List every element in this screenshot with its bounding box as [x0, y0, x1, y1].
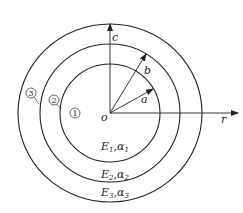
layer-2-properties: E2,α2	[100, 168, 129, 182]
svg-text:1: 1	[73, 109, 78, 118]
radius-label-a: a	[141, 93, 148, 106]
layer-marker-3: 3	[26, 88, 39, 104]
layer-marker-1: 1	[70, 108, 80, 118]
svg-text:3: 3	[29, 89, 34, 98]
axis-label-r: r	[221, 113, 227, 126]
radius-label-b: b	[144, 64, 151, 77]
diagram-canvas: c r o a b 1 2 3 E1,α1 E2,α2 E3,α3	[0, 0, 243, 213]
layer-marker-2: 2	[49, 95, 61, 109]
origin-label: o	[101, 111, 108, 124]
axis-label-c: c	[112, 31, 118, 44]
layer-3-properties: E3,α3	[100, 186, 129, 200]
layer-1-properties: E1,α1	[100, 140, 129, 154]
svg-text:2: 2	[52, 96, 57, 105]
